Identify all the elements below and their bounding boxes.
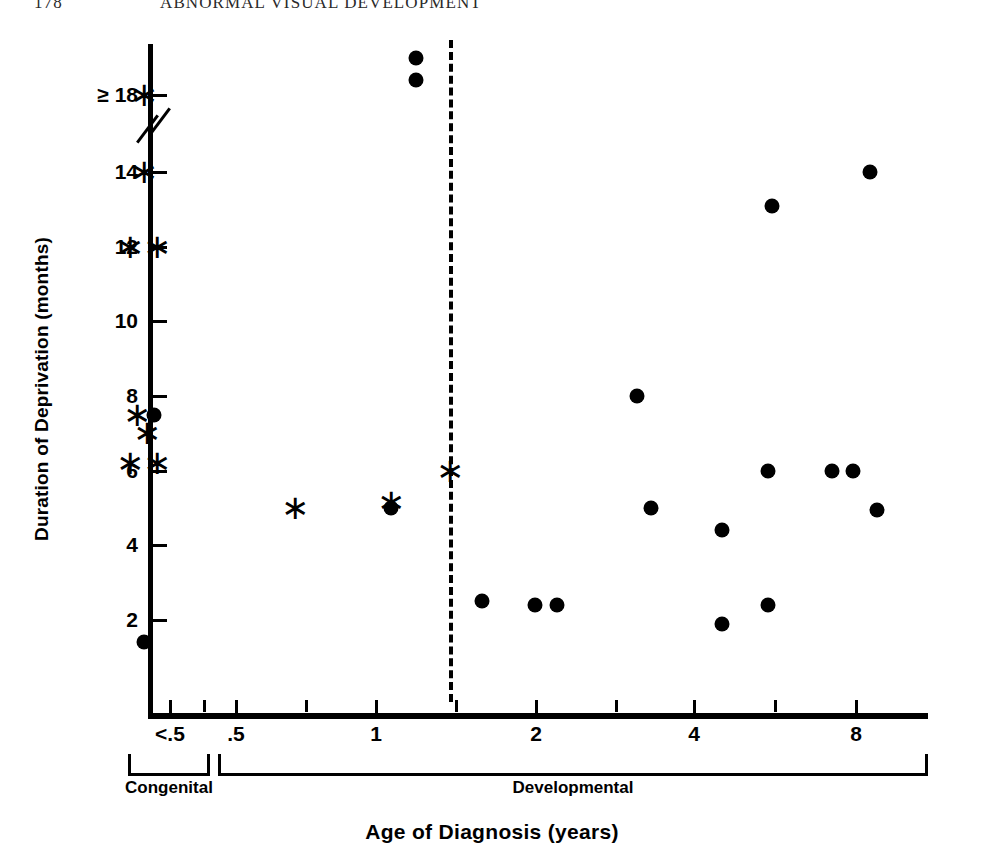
- x-minor-tick: [774, 700, 777, 712]
- circle-marker: [629, 389, 644, 404]
- x-minor-tick: [455, 700, 458, 712]
- circle-marker: [761, 598, 776, 613]
- circle-marker: [846, 463, 861, 478]
- y-tick-label: 10: [58, 309, 138, 333]
- congenital-developmental-divider-line: [449, 40, 453, 702]
- group-bracket-label: Congenital: [125, 778, 213, 798]
- x-tick-label: 4: [688, 722, 700, 746]
- y-axis-title: Duration of Deprivation (months): [31, 179, 53, 599]
- circle-marker: [644, 501, 659, 516]
- y-tick: [153, 619, 167, 622]
- circle-marker: [409, 51, 424, 66]
- y-tick: [153, 320, 167, 323]
- x-tick-label: <.5: [155, 722, 185, 746]
- y-tick: [153, 544, 167, 547]
- x-tick: [169, 700, 172, 714]
- circle-marker: [825, 463, 840, 478]
- circle-marker: [761, 463, 776, 478]
- circle-marker: [765, 198, 780, 213]
- x-tick: [855, 700, 858, 714]
- scatter-plot: ≥ 181412108642 <.5.51248 ∗∗∗∗∗∗∗∗∗∗∗ Con…: [0, 0, 984, 857]
- group-bracket: [128, 754, 210, 776]
- y-tick-label: ≥ 18: [58, 83, 138, 107]
- x-tick: [693, 700, 696, 714]
- x-tick-label: 8: [850, 722, 862, 746]
- x-minor-tick: [615, 700, 618, 712]
- x-tick: [535, 700, 538, 714]
- y-tick-label: 4: [58, 533, 138, 557]
- x-axis-line: [148, 713, 928, 719]
- x-tick-label: .5: [227, 722, 245, 746]
- circle-marker: [715, 523, 730, 538]
- group-bracket: [218, 754, 928, 776]
- circle-marker: [474, 594, 489, 609]
- figure-page: 178 ABNORMAL VISUAL DEVELOPMENT ≥ 181412…: [0, 0, 984, 857]
- circle-marker: [409, 73, 424, 88]
- circle-marker: [549, 598, 564, 613]
- x-minor-tick: [203, 700, 206, 712]
- x-tick: [375, 700, 378, 714]
- circle-marker: [715, 616, 730, 631]
- x-axis-title: Age of Diagnosis (years): [0, 820, 984, 844]
- y-tick-label: 14: [58, 160, 138, 184]
- x-minor-tick: [305, 700, 308, 712]
- group-bracket-label: Developmental: [513, 778, 634, 798]
- y-tick-label: 2: [58, 608, 138, 632]
- x-tick-label: 2: [530, 722, 542, 746]
- y-tick: [153, 395, 167, 398]
- circle-marker: [527, 598, 542, 613]
- x-tick-label: 1: [370, 722, 382, 746]
- circle-marker: [862, 165, 877, 180]
- circle-marker: [136, 635, 151, 650]
- circle-marker: [870, 502, 885, 517]
- x-tick: [235, 700, 238, 714]
